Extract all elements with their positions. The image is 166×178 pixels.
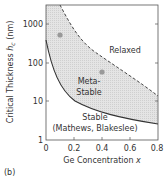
- relaxed-label: Relaxed: [109, 46, 141, 55]
- y-tick-label: 1: [38, 136, 43, 145]
- metastable-region: [46, 5, 158, 124]
- data-point: [99, 69, 104, 74]
- data-point: [57, 32, 62, 37]
- y-tick-label: 10: [33, 97, 43, 106]
- y-axis-label: Critical Thickness hc (nm): [6, 21, 16, 124]
- metastable-label-2: Stable: [76, 88, 101, 97]
- x-ticks: [74, 137, 130, 140]
- stable-source-label: (Mathews, Blakeslee): [52, 124, 137, 133]
- x-axis-label: Ge Concentration x: [63, 156, 141, 165]
- stable-label: Stable: [82, 113, 107, 122]
- x-tick-label: 0.8: [151, 144, 164, 153]
- chart: 1000 100 10 1 0 0.2 0.4 0.6 0.8 Ge Conce…: [0, 0, 166, 178]
- y-tick-label: 1000: [23, 20, 43, 29]
- x-tick-label: 0.2: [68, 144, 81, 153]
- panel-label: (b): [4, 168, 15, 177]
- x-tick-label: 0.6: [124, 144, 137, 153]
- y-tick-label: 100: [28, 59, 43, 68]
- x-tick-label: 0: [43, 144, 48, 153]
- x-tick-label: 0.4: [96, 144, 109, 153]
- metastable-label-1: Meta-: [78, 77, 101, 86]
